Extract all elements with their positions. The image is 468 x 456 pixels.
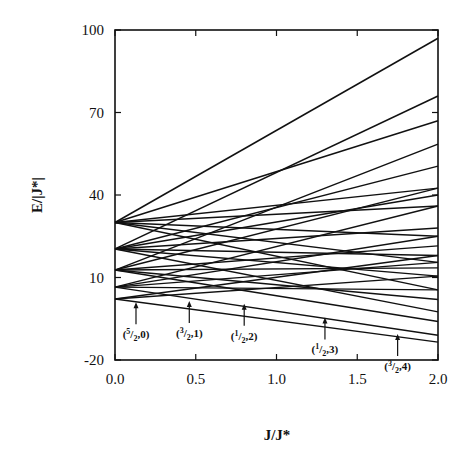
energy-level-line	[115, 299, 438, 342]
x-axis-title: J/J*	[264, 427, 291, 443]
x-tick-label: 0.5	[186, 371, 205, 387]
y-tick-label: 10	[89, 270, 104, 286]
arrow-head-icon	[133, 302, 138, 308]
y-tick-label: 40	[89, 187, 104, 203]
energy-level-lines	[115, 38, 438, 342]
x-tick-label: 0.0	[106, 371, 125, 387]
x-tick-label: 1.5	[348, 371, 367, 387]
energy-level-line	[115, 38, 438, 222]
energy-level-line	[115, 206, 438, 223]
y-tick-label: 70	[89, 105, 104, 121]
annotation-label: (5/2,0)	[123, 327, 150, 343]
energy-level-chart: 0.00.51.01.52.0100704010-20 (5/2,0)(3/2,…	[0, 0, 468, 456]
energy-level-line	[115, 268, 438, 270]
axis-ticks: 0.00.51.01.52.0100704010-20	[82, 22, 448, 387]
annotation-label: (3/2,4)	[384, 359, 411, 375]
annotation-label: (1/2,3)	[312, 342, 339, 358]
energy-level-line	[115, 188, 438, 222]
annotation-label: (3/2,1)	[176, 326, 203, 342]
arrow-head-icon	[187, 301, 192, 307]
energy-level-line	[115, 228, 438, 249]
y-tick-label: 100	[82, 22, 105, 38]
y-tick-label: -20	[84, 352, 104, 368]
energy-level-line	[115, 195, 438, 249]
annotation-label: (1/2,2)	[231, 329, 258, 345]
y-axis-title: E/|J*|	[29, 177, 45, 213]
energy-level-line	[115, 96, 438, 249]
x-tick-label: 1.0	[267, 371, 286, 387]
x-tick-label: 2.0	[429, 371, 448, 387]
state-annotations: (5/2,0)(3/2,1)(1/2,2)(1/2,3)(3/2,4)	[123, 301, 412, 375]
